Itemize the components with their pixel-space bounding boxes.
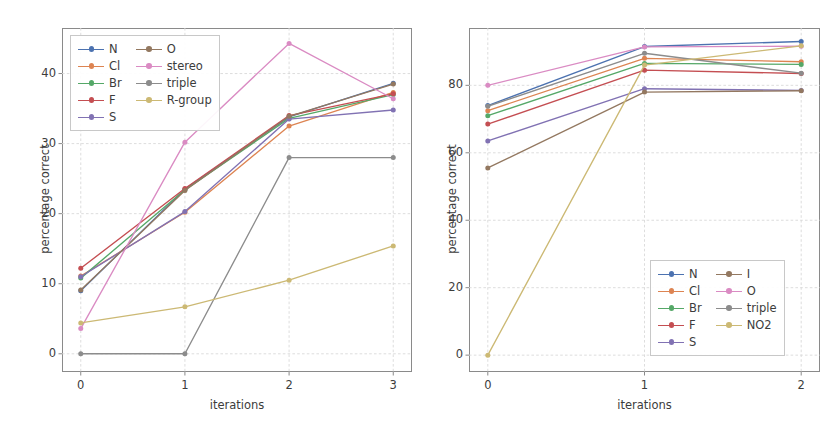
data-point: [642, 90, 647, 95]
legend-item-no2[interactable]: NO2: [716, 317, 777, 334]
legend-label: F: [689, 320, 696, 331]
chart-panel-right: percentage correct iterations 0204060800…: [420, 0, 833, 445]
legend-label: Cl: [109, 61, 120, 72]
data-point: [391, 155, 396, 160]
legend-marker-icon: [78, 45, 104, 55]
chart-panel-left: percentage correct iterations 0102030400…: [0, 0, 420, 445]
legend-item-o[interactable]: O: [136, 41, 212, 58]
legend-label: NO2: [747, 320, 772, 331]
legend-label: O: [747, 286, 756, 297]
legend-label: R-group: [167, 95, 212, 106]
legend-label: N: [689, 269, 698, 280]
legend-left[interactable]: NClBrFSOstereotripleR-group: [70, 35, 220, 131]
y-tick-label: 20: [425, 280, 463, 294]
legend-label: triple: [167, 78, 197, 89]
legend-item-n[interactable]: N: [658, 266, 702, 283]
legend-label: I: [747, 269, 750, 280]
series-line-triple: [81, 158, 394, 354]
data-point: [78, 351, 83, 356]
data-point: [391, 107, 396, 112]
legend-item-s[interactable]: S: [658, 334, 702, 351]
legend-item-triple[interactable]: triple: [136, 75, 212, 92]
x-tick-label: 1: [625, 378, 665, 392]
x-tick-label: 2: [781, 378, 821, 392]
legend-column: NClBrFS: [78, 41, 122, 126]
x-tick-label: 2: [269, 378, 309, 392]
data-point: [485, 104, 490, 109]
data-point: [799, 62, 804, 67]
legend-label: S: [109, 112, 116, 123]
legend-item-cl[interactable]: Cl: [78, 58, 122, 75]
legend-item-cl[interactable]: Cl: [658, 283, 702, 300]
legend-column: IOtripleNO2: [716, 266, 777, 351]
legend-marker-icon: [136, 79, 162, 89]
data-point: [799, 88, 804, 93]
data-point: [287, 155, 292, 160]
data-point: [182, 140, 187, 145]
x-tick-label: 3: [373, 378, 413, 392]
legend-marker-icon: [658, 287, 684, 297]
legend-item-n[interactable]: N: [78, 41, 122, 58]
data-point: [642, 51, 647, 56]
data-point: [485, 83, 490, 88]
y-tick-label: 60: [425, 145, 463, 159]
legend-marker-icon: [658, 270, 684, 280]
legend-label: Br: [109, 78, 122, 89]
data-point: [485, 165, 490, 170]
data-point: [182, 351, 187, 356]
data-point: [182, 304, 187, 309]
legend-marker-icon: [78, 113, 104, 123]
data-point: [287, 114, 292, 119]
legend-column: OstereotripleR-group: [136, 41, 212, 126]
legend-marker-icon: [136, 62, 162, 72]
legend-item-stereo[interactable]: stereo: [136, 58, 212, 75]
data-point: [391, 243, 396, 248]
legend-marker-icon: [716, 321, 742, 331]
data-point: [642, 63, 647, 68]
legend-marker-icon: [78, 79, 104, 89]
legend-marker-icon: [658, 304, 684, 314]
data-point: [391, 91, 396, 96]
legend-item-i[interactable]: I: [716, 266, 777, 283]
legend-label: O: [167, 44, 176, 55]
legend-label: stereo: [167, 61, 203, 72]
legend-item-r-group[interactable]: R-group: [136, 92, 212, 109]
legend-marker-icon: [78, 96, 104, 106]
legend-label: Br: [689, 303, 702, 314]
data-point: [799, 43, 804, 48]
legend-marker-icon: [136, 45, 162, 55]
legend-item-br[interactable]: Br: [658, 300, 702, 317]
data-point: [485, 353, 490, 358]
legend-label: N: [109, 44, 118, 55]
data-point: [287, 278, 292, 283]
x-tick-label: 0: [61, 378, 101, 392]
legend-marker-icon: [658, 321, 684, 331]
legend-item-s[interactable]: S: [78, 109, 122, 126]
legend-right[interactable]: NClBrFSIOtripleNO2: [650, 260, 785, 356]
legend-label: S: [689, 337, 696, 348]
legend-column: NClBrFS: [658, 266, 702, 351]
legend-marker-icon: [716, 304, 742, 314]
figure-container: percentage correct iterations 0102030400…: [0, 0, 833, 445]
legend-grid: NClBrFSIOtripleNO2: [658, 266, 777, 351]
data-point: [78, 288, 83, 293]
data-point: [391, 96, 396, 101]
legend-label: F: [109, 95, 116, 106]
y-tick-label: 30: [18, 136, 56, 150]
data-point: [391, 82, 396, 87]
data-point: [642, 44, 647, 49]
series-line-r-group: [81, 246, 394, 323]
x-tick-label: 0: [468, 378, 508, 392]
series-line-s: [81, 110, 394, 277]
legend-item-triple[interactable]: triple: [716, 300, 777, 317]
legend-item-f[interactable]: F: [658, 317, 702, 334]
legend-grid: NClBrFSOstereotripleR-group: [78, 41, 212, 126]
legend-item-f[interactable]: F: [78, 92, 122, 109]
x-tick-label: 1: [165, 378, 205, 392]
legend-item-o[interactable]: O: [716, 283, 777, 300]
data-point: [485, 138, 490, 143]
legend-item-br[interactable]: Br: [78, 75, 122, 92]
data-point: [799, 71, 804, 76]
y-tick-label: 80: [425, 77, 463, 91]
data-point: [182, 188, 187, 193]
